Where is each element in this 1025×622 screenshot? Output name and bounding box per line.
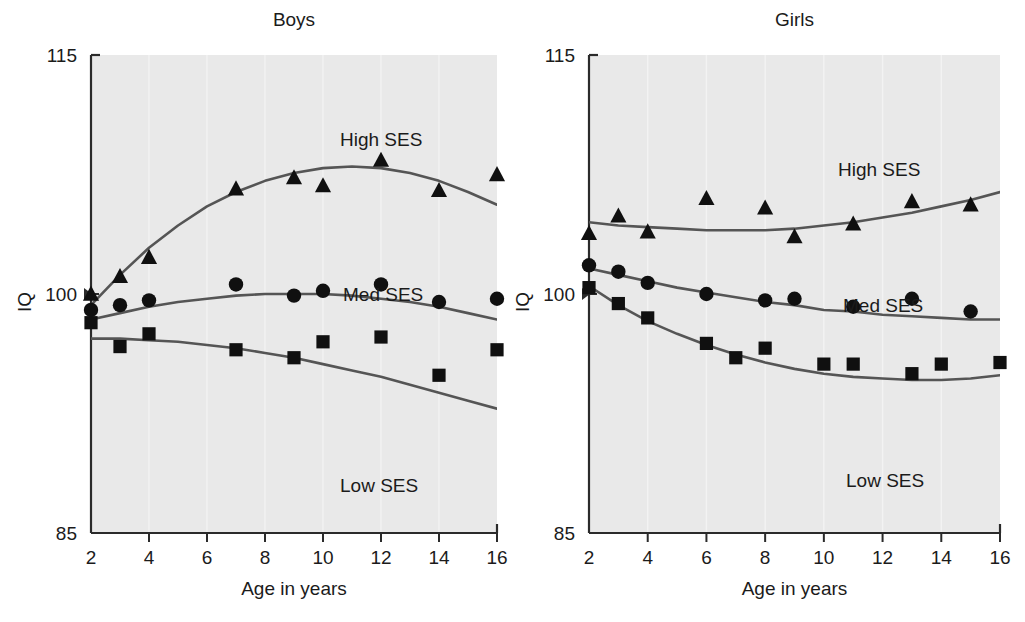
marker-circle-med-ses-girls	[787, 292, 801, 306]
x-tick-label-16-boys: 16	[486, 547, 507, 568]
marker-square-low-ses-boys	[374, 330, 387, 343]
x-tick-label-6-girls: 6	[701, 547, 712, 568]
marker-square-low-ses-girls	[612, 297, 625, 310]
series-label-med-girls: Med SES	[843, 295, 923, 316]
marker-circle-med-ses-boys	[432, 295, 446, 309]
marker-square-low-ses-girls	[759, 342, 772, 355]
y-tick-label-115-boys: 115	[47, 45, 77, 66]
marker-square-low-ses-boys	[142, 327, 155, 340]
y-tick-label-85-boys: 85	[56, 523, 77, 544]
marker-square-low-ses-boys	[490, 343, 503, 356]
marker-square-low-ses-girls	[817, 358, 830, 371]
series-label-low-boys: Low SES	[340, 475, 418, 496]
marker-square-low-ses-girls	[905, 367, 918, 380]
x-axis-label-boys: Age in years	[241, 578, 347, 599]
marker-circle-med-ses-boys	[142, 293, 156, 307]
series-label-high-boys: High SES	[340, 129, 422, 150]
y-tick-label-100-girls: 100	[543, 284, 575, 305]
x-tick-label-12-girls: 12	[872, 547, 893, 568]
x-tick-label-4-boys: 4	[144, 547, 155, 568]
series-label-med-boys: Med SES	[343, 284, 423, 305]
panel-boys: 11510085246810121416BoysAge in yearsIQ	[14, 9, 508, 599]
marker-square-low-ses-girls	[993, 356, 1006, 369]
marker-circle-med-ses-girls	[641, 276, 655, 290]
series-label-high-girls: High SES	[838, 159, 920, 180]
x-tick-label-10-girls: 10	[813, 547, 834, 568]
marker-circle-med-ses-boys	[84, 303, 98, 317]
marker-square-low-ses-boys	[113, 340, 126, 353]
marker-square-low-ses-girls	[582, 281, 595, 294]
chart-canvas: 11510085246810121416BoysAge in yearsIQ11…	[0, 0, 1025, 622]
marker-circle-med-ses-boys	[113, 298, 127, 312]
marker-square-low-ses-boys	[287, 351, 300, 364]
marker-circle-med-ses-boys	[229, 277, 243, 291]
figure-iq-by-age-ses: 11510085246810121416BoysAge in yearsIQ11…	[0, 0, 1025, 622]
panel-girls: 11510085246810121416GirlsAge in yearsIQ	[512, 9, 1011, 599]
marker-circle-med-ses-girls	[582, 258, 596, 272]
marker-circle-med-ses-girls	[611, 264, 625, 278]
x-tick-label-16-girls: 16	[989, 547, 1010, 568]
marker-square-low-ses-girls	[729, 351, 742, 364]
x-tick-label-14-girls: 14	[931, 547, 953, 568]
x-axis-label-girls: Age in years	[742, 578, 848, 599]
x-tick-label-2-girls: 2	[584, 547, 595, 568]
y-tick-label-85-girls: 85	[554, 523, 575, 544]
x-tick-label-10-boys: 10	[312, 547, 333, 568]
marker-circle-med-ses-boys	[287, 288, 301, 302]
series-label-low-girls: Low SES	[846, 470, 924, 491]
x-tick-label-8-girls: 8	[760, 547, 771, 568]
x-tick-label-2-boys: 2	[86, 547, 97, 568]
marker-square-low-ses-girls	[935, 358, 948, 371]
marker-circle-med-ses-boys	[490, 292, 504, 306]
marker-square-low-ses-girls	[700, 337, 713, 350]
marker-circle-med-ses-girls	[963, 304, 977, 318]
marker-square-low-ses-boys	[316, 335, 329, 348]
x-tick-label-6-boys: 6	[202, 547, 213, 568]
y-axis-label-boys: IQ	[14, 292, 35, 312]
marker-circle-med-ses-boys	[316, 284, 330, 298]
marker-circle-med-ses-girls	[699, 287, 713, 301]
x-tick-label-8-boys: 8	[260, 547, 271, 568]
panel-title-girls: Girls	[775, 9, 814, 30]
marker-square-low-ses-girls	[847, 358, 860, 371]
x-tick-label-12-boys: 12	[370, 547, 391, 568]
marker-circle-med-ses-girls	[758, 293, 772, 307]
y-tick-label-100-boys: 100	[45, 284, 77, 305]
panel-title-boys: Boys	[273, 9, 315, 30]
marker-square-low-ses-girls	[641, 311, 654, 324]
x-tick-label-14-boys: 14	[428, 547, 450, 568]
marker-square-low-ses-boys	[432, 369, 445, 382]
y-tick-label-115-girls: 115	[545, 45, 575, 66]
x-tick-label-4-girls: 4	[642, 547, 653, 568]
marker-square-low-ses-boys	[229, 343, 242, 356]
marker-square-low-ses-boys	[84, 316, 97, 329]
y-axis-label-girls: IQ	[512, 292, 533, 312]
